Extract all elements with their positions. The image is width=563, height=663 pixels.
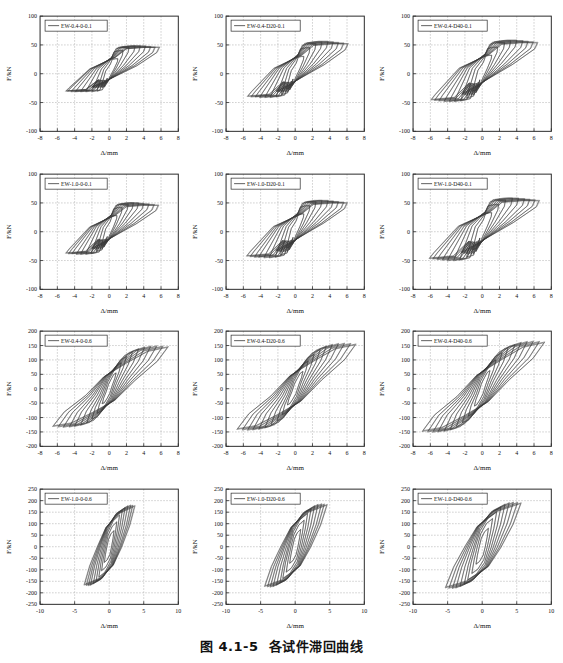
svg-text:6: 6 — [346, 135, 349, 141]
svg-text:-100: -100 — [26, 286, 37, 292]
svg-text:-2: -2 — [276, 293, 281, 299]
svg-text:-50: -50 — [215, 555, 223, 561]
x-axis-label: Δ/mm — [101, 464, 119, 472]
x-axis-label: Δ/mm — [287, 149, 305, 157]
caption-number: 图 4.1-5 — [200, 639, 259, 654]
svg-text:-150: -150 — [26, 429, 37, 435]
svg-text:0: 0 — [480, 293, 483, 299]
hysteresis-plot: -10-50510-250-200-150-100-50050100150200… — [188, 477, 374, 635]
svg-text:-4: -4 — [258, 293, 263, 299]
legend-label: EW-0.4-D20-0.1 — [247, 23, 285, 29]
svg-text:0: 0 — [407, 386, 410, 392]
svg-text:-200: -200 — [26, 589, 37, 595]
svg-text:-5: -5 — [72, 608, 77, 614]
svg-text:2: 2 — [498, 135, 501, 141]
svg-text:250: 250 — [214, 486, 223, 492]
svg-text:4: 4 — [142, 135, 145, 141]
svg-text:-8: -8 — [224, 135, 229, 141]
svg-text:-4: -4 — [445, 135, 450, 141]
legend: EW-0.4-0-0.6 — [45, 335, 107, 346]
svg-text:6: 6 — [532, 293, 535, 299]
hysteresis-plot: -8-6-4-202468-100-50050100Δ/mmF/kNEW-1.0… — [2, 162, 188, 320]
svg-text:-50: -50 — [29, 555, 37, 561]
y-axis-label: F/kN — [191, 539, 199, 553]
svg-text:-50: -50 — [29, 100, 37, 106]
x-axis-label: Δ/mm — [473, 149, 491, 157]
legend: EW-1.0-D20-0.1 — [231, 178, 300, 189]
svg-text:-50: -50 — [215, 400, 223, 406]
svg-text:100: 100 — [214, 520, 223, 526]
svg-text:50: 50 — [217, 199, 223, 205]
svg-text:-10: -10 — [222, 608, 230, 614]
svg-text:4: 4 — [329, 135, 332, 141]
svg-text:150: 150 — [28, 343, 37, 349]
y-axis-label: F/kN — [378, 539, 386, 553]
y-axis-label: F/kN — [191, 224, 199, 238]
svg-text:0: 0 — [480, 450, 483, 456]
chart-panel: -10-50510-250-200-150-100-50050100150200… — [375, 477, 561, 635]
svg-text:-8: -8 — [224, 450, 229, 456]
svg-text:-8: -8 — [410, 135, 415, 141]
svg-text:-200: -200 — [212, 589, 223, 595]
svg-text:-8: -8 — [224, 293, 229, 299]
svg-text:-2: -2 — [89, 293, 94, 299]
svg-text:2: 2 — [498, 293, 501, 299]
svg-text:-100: -100 — [399, 415, 410, 421]
legend: EW-1.0-0-0.1 — [45, 178, 107, 189]
y-axis-label: F/kN — [5, 67, 13, 81]
svg-text:-150: -150 — [26, 578, 37, 584]
svg-text:2: 2 — [125, 450, 128, 456]
svg-text:-100: -100 — [399, 286, 410, 292]
svg-text:50: 50 — [404, 199, 410, 205]
svg-text:-200: -200 — [212, 443, 223, 449]
hysteresis-plot: -8-6-4-202468-200-150-100-50050100150200… — [2, 319, 188, 477]
svg-text:-6: -6 — [428, 135, 433, 141]
svg-text:6: 6 — [532, 450, 535, 456]
svg-text:0: 0 — [480, 135, 483, 141]
legend: EW-1.0-D40-0.1 — [418, 178, 487, 189]
svg-text:100: 100 — [214, 171, 223, 177]
svg-text:-150: -150 — [399, 578, 410, 584]
svg-text:-4: -4 — [445, 293, 450, 299]
chart-panel: -8-6-4-202468-100-50050100Δ/mmF/kNEW-1.0… — [2, 162, 188, 320]
svg-text:8: 8 — [177, 135, 180, 141]
svg-text:-2: -2 — [462, 450, 467, 456]
svg-text:0: 0 — [407, 228, 410, 234]
svg-text:0: 0 — [294, 450, 297, 456]
legend-label: EW-0.4-D40-0.6 — [434, 338, 472, 344]
svg-text:50: 50 — [31, 42, 37, 48]
x-axis-label: Δ/mm — [473, 464, 491, 472]
svg-text:-6: -6 — [55, 293, 60, 299]
svg-text:-6: -6 — [55, 135, 60, 141]
svg-text:0: 0 — [407, 71, 410, 77]
hysteresis-plot: -8-6-4-202468-100-50050100Δ/mmF/kNEW-1.0… — [188, 162, 374, 320]
legend-label: EW-0.4-0-0.6 — [61, 338, 92, 344]
svg-text:8: 8 — [549, 293, 552, 299]
y-axis-label: F/kN — [378, 382, 386, 396]
svg-text:0: 0 — [34, 71, 37, 77]
caption-title: 各试件滞回曲线 — [269, 639, 364, 654]
svg-text:250: 250 — [28, 486, 37, 492]
chart-panel: -8-6-4-202468-200-150-100-50050100150200… — [375, 319, 561, 477]
svg-text:-150: -150 — [399, 429, 410, 435]
svg-text:-150: -150 — [212, 429, 223, 435]
svg-text:-150: -150 — [212, 578, 223, 584]
svg-text:-10: -10 — [409, 608, 417, 614]
svg-text:-250: -250 — [399, 601, 410, 607]
svg-text:4: 4 — [142, 450, 145, 456]
svg-text:50: 50 — [404, 42, 410, 48]
x-axis-label: Δ/mm — [473, 307, 491, 315]
svg-text:-6: -6 — [241, 293, 246, 299]
svg-text:10: 10 — [548, 608, 554, 614]
svg-text:100: 100 — [28, 171, 37, 177]
svg-text:150: 150 — [401, 509, 410, 515]
chart-panel: -8-6-4-202468-100-50050100Δ/mmF/kNEW-0.4… — [2, 4, 188, 162]
svg-text:-50: -50 — [215, 100, 223, 106]
svg-text:-8: -8 — [38, 450, 43, 456]
chart-panel: -8-6-4-202468-100-50050100Δ/mmF/kNEW-1.0… — [375, 162, 561, 320]
svg-text:2: 2 — [311, 293, 314, 299]
svg-text:8: 8 — [177, 293, 180, 299]
svg-text:-100: -100 — [26, 128, 37, 134]
svg-text:-100: -100 — [212, 286, 223, 292]
svg-text:50: 50 — [217, 371, 223, 377]
